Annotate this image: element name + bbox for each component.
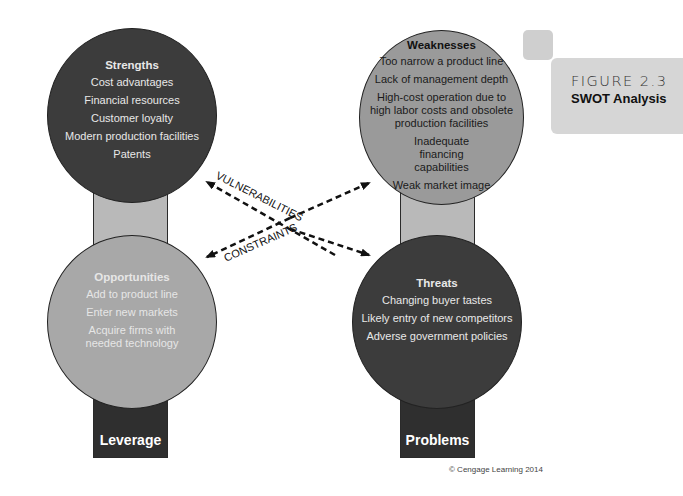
cross-arrows: VULNERABILITIES CONSTRAINTS: [0, 0, 683, 496]
vulnerabilities-label: VULNERABILITIES: [214, 169, 305, 223]
copyright-text: © Cengage Learning 2014: [449, 465, 543, 474]
constraints-label: CONSTRAINTS: [222, 221, 299, 264]
vulnerabilities-arrow-end: [290, 229, 369, 255]
